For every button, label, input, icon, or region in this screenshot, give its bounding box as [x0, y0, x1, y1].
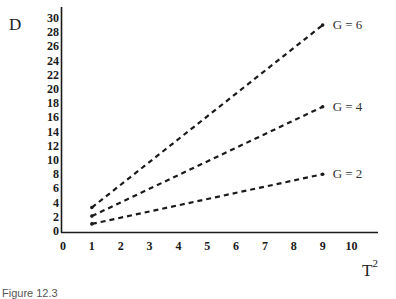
x-tick-label: 0 — [60, 239, 66, 253]
y-tick-labels: 024681012141618202224262830 — [47, 11, 59, 238]
series-label: G = 6 — [333, 17, 363, 32]
x-tick-label: 8 — [291, 239, 297, 253]
y-tick-label: 30 — [47, 11, 59, 25]
axes — [61, 7, 378, 233]
y-tick-label: 4 — [53, 196, 59, 210]
x-tick-labels: 012345678910 — [60, 239, 358, 253]
x-tick-label: 7 — [262, 239, 268, 253]
x-tick-label: 2 — [118, 239, 124, 253]
figure-caption: Figure 12.3 — [2, 287, 58, 299]
x-tick-label: 4 — [175, 239, 181, 253]
x-tick-label: 3 — [147, 239, 153, 253]
y-tick-label: 10 — [47, 153, 59, 167]
x-tick-label: 9 — [320, 239, 326, 253]
series-start-point — [90, 214, 94, 218]
y-tick-label: 26 — [47, 39, 59, 53]
series-start-point — [90, 206, 94, 210]
y-tick-label: 14 — [47, 125, 59, 139]
series-lines — [90, 23, 324, 225]
y-tick-label: 20 — [47, 82, 59, 96]
series-labels: G = 6G = 4G = 2 — [333, 17, 363, 181]
y-tick-label: 18 — [47, 96, 59, 110]
y-tick-label: 28 — [47, 25, 59, 39]
y-tick-label: 12 — [47, 139, 59, 153]
series-end-point — [321, 23, 325, 27]
y-tick-label: 0 — [53, 224, 59, 238]
y-tick-label: 8 — [53, 167, 59, 181]
x-tick-label: 5 — [204, 239, 210, 253]
series-end-point — [321, 105, 325, 109]
series-label: G = 4 — [333, 99, 363, 114]
x-axis-label-base: T — [362, 261, 373, 280]
x-axis-label: T2 — [362, 257, 378, 280]
x-axis-label-superscript: 2 — [372, 257, 378, 269]
x-tick-label: 6 — [233, 239, 239, 253]
x-tick-label: 10 — [346, 239, 358, 253]
y-axis-label: D — [9, 15, 21, 34]
series-start-point — [90, 222, 94, 226]
series-line — [92, 25, 323, 207]
y-tick-label: 22 — [47, 68, 59, 82]
y-tick-label: 16 — [47, 110, 59, 124]
series-end-point — [321, 172, 325, 176]
y-tick-label: 6 — [53, 181, 59, 195]
series-label: G = 2 — [333, 166, 363, 181]
y-tick-label: 2 — [53, 210, 59, 224]
y-tick-label: 24 — [47, 54, 59, 68]
x-tick-label: 1 — [89, 239, 95, 253]
